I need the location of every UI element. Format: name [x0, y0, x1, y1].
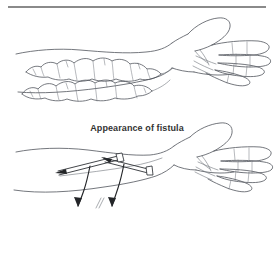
diagram-page: Appearance of fistula: [0, 0, 274, 255]
fistula-vein-upper: [26, 58, 161, 81]
tubing-arrow-from: [74, 197, 82, 207]
panel-needles: From dialyzer To dialyzer Dialysis needl…: [0, 128, 274, 248]
tubing-arrow-to: [108, 197, 116, 207]
top-divider-rule: [8, 6, 266, 8]
panel-fistula: Appearance of fistula: [0, 12, 274, 124]
needles-arm-illustration: [0, 128, 274, 220]
venous-needle: [101, 157, 153, 175]
fistula-arm-illustration: [0, 12, 274, 108]
